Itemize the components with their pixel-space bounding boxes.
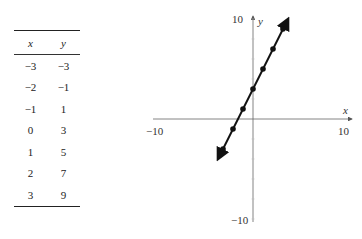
data-point (240, 106, 246, 112)
x-min-label: −10 (146, 125, 164, 137)
data-point (260, 66, 266, 72)
y-axis-label: y (257, 15, 263, 27)
data-point (230, 126, 236, 132)
coordinate-graph: −10 10 10 −10 x y (0, 0, 362, 239)
x-max-label: 10 (338, 125, 350, 137)
data-point (220, 146, 226, 152)
data-point (270, 46, 276, 52)
y-max-label: 10 (232, 13, 244, 25)
data-point (250, 86, 256, 92)
x-axis-label: x (342, 104, 348, 116)
data-point (280, 26, 286, 32)
y-min-label: −10 (231, 214, 249, 226)
